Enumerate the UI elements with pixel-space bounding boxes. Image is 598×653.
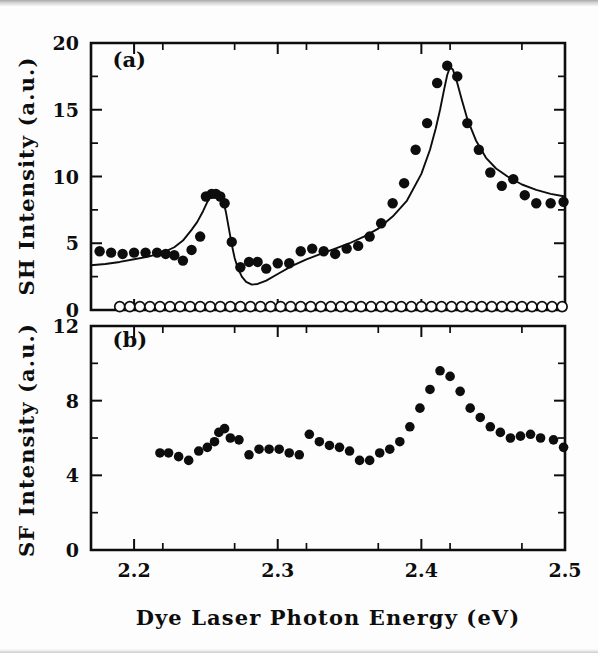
data-point-filled (117, 249, 127, 259)
data-point-open (416, 302, 426, 312)
data-point-filled (497, 181, 507, 191)
data-point-filled (264, 444, 274, 454)
data-point-filled (164, 448, 174, 458)
data-point-filled (325, 441, 335, 451)
data-point-filled (508, 174, 518, 184)
data-point-filled (169, 250, 179, 260)
data-point-open (406, 302, 416, 312)
data-point-open (467, 302, 477, 312)
data-point-open (155, 302, 165, 312)
data-point-filled (234, 435, 244, 445)
data-point-open (386, 302, 396, 312)
data-point-open (537, 302, 547, 312)
data-point-open (266, 302, 276, 312)
y-tick-label: 0 (66, 539, 79, 561)
data-point-open (296, 302, 306, 312)
data-point-open (487, 302, 497, 312)
data-point-filled (455, 387, 465, 397)
y-tick-label: 10 (53, 166, 79, 188)
data-point-filled (226, 433, 236, 443)
data-point-open (135, 302, 145, 312)
x-tick-label: 2.3 (261, 559, 294, 581)
data-point-open (235, 302, 245, 312)
panel-b-x-ticks (91, 326, 565, 550)
panel-a-label: (a) (113, 47, 146, 72)
panel-a-y-ticks (91, 43, 565, 310)
data-point-filled (536, 433, 546, 443)
data-point-filled (335, 443, 345, 453)
data-point-filled (520, 190, 530, 200)
panel-b-y-tick-labels: 04812 (53, 315, 79, 561)
data-point-filled (442, 60, 452, 70)
x-axis-title: Dye Laser Photon Energy (eV) (136, 605, 521, 630)
data-point-filled (385, 444, 395, 454)
data-point-filled (474, 145, 484, 155)
panel-b: 04812 2.22.32.42.5 (b) SF Intensity (a.u… (14, 315, 582, 581)
data-point-open (115, 302, 125, 312)
y-tick-label: 15 (53, 99, 79, 121)
data-point-open (175, 302, 185, 312)
data-point-open (316, 302, 326, 312)
data-point-open (276, 302, 286, 312)
panel-a-frame (91, 43, 565, 310)
data-point-filled (94, 246, 104, 256)
data-point-filled (415, 403, 425, 413)
data-point-filled (496, 428, 506, 438)
data-point-open (286, 302, 296, 312)
data-point-filled (210, 437, 220, 447)
data-point-open (215, 302, 225, 312)
data-point-filled (261, 263, 271, 273)
data-point-filled (353, 241, 363, 251)
data-point-filled (244, 450, 254, 460)
data-point-filled (516, 431, 526, 441)
data-point-filled (106, 247, 116, 257)
data-point-filled (254, 444, 264, 454)
data-point-filled (435, 366, 445, 376)
data-point-open (457, 302, 467, 312)
data-point-filled (365, 456, 375, 466)
panel-a-x-ticks (91, 43, 565, 310)
scientific-figure: 05101520 (a) SH Intensity (a.u.) 04812 2… (0, 0, 598, 653)
data-point-filled (549, 435, 559, 445)
data-point-filled (155, 448, 165, 458)
data-point-filled (284, 448, 294, 458)
data-point-open (326, 302, 336, 312)
data-point-open (396, 302, 406, 312)
data-point-filled (186, 245, 196, 255)
data-point-open (527, 302, 537, 312)
panel-b-x-tick-labels: 2.22.32.42.5 (118, 559, 582, 581)
panel-a: 05101520 (a) SH Intensity (a.u.) (14, 32, 569, 321)
data-point-filled (305, 429, 315, 439)
data-point-filled (432, 78, 442, 88)
data-point-open (125, 302, 135, 312)
data-point-open (205, 302, 215, 312)
data-point-filled (227, 237, 237, 247)
data-point-filled (129, 247, 139, 257)
data-point-filled (174, 452, 184, 462)
panel-b-filled-circle-series (155, 366, 568, 465)
data-point-filled (364, 231, 374, 241)
data-point-open (255, 302, 265, 312)
data-point-filled (315, 437, 325, 447)
data-point-open (517, 302, 527, 312)
data-point-filled (376, 218, 386, 228)
y-tick-label: 5 (66, 232, 79, 254)
data-point-filled (273, 258, 283, 268)
panel-b-axes (91, 326, 565, 550)
data-point-filled (405, 422, 415, 432)
y-tick-label: 20 (53, 32, 79, 54)
data-point-filled (559, 443, 569, 453)
panel-b-frame (91, 326, 565, 550)
panel-b-y-ticks (91, 326, 565, 550)
figure-root: 05101520 (a) SH Intensity (a.u.) 04812 2… (0, 0, 598, 653)
x-tick-label: 2.4 (405, 559, 438, 581)
data-point-open (557, 302, 567, 312)
data-point-filled (219, 198, 229, 208)
x-tick-label: 2.5 (548, 559, 581, 581)
data-point-filled (220, 424, 230, 434)
data-point-filled (462, 118, 472, 128)
data-point-open (185, 302, 195, 312)
data-point-filled (355, 456, 365, 466)
data-point-filled (545, 198, 555, 208)
panel-a-filled-circle-series (94, 60, 568, 273)
